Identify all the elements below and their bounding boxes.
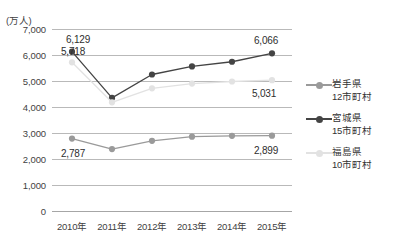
series-line-岩手県 bbox=[72, 136, 272, 149]
legend-label-prefecture: 福島県 bbox=[332, 146, 372, 159]
legend-marker-icon-岩手県 bbox=[306, 79, 332, 91]
data-label-6066: 6,066 bbox=[254, 35, 278, 46]
data-point-福島県-2014年 bbox=[229, 78, 235, 84]
line-chart: (万人) 01,0002,0003,0004,0005,0006,0007,00… bbox=[0, 0, 393, 242]
legend-marker-icon-福島県 bbox=[306, 147, 332, 159]
legend-label-municipalities: 15市町村 bbox=[332, 125, 372, 138]
y-tick-label-6000: 6,000 bbox=[23, 50, 46, 61]
legend-label-municipalities: 12市町村 bbox=[332, 91, 372, 104]
legend-dot-icon bbox=[316, 150, 323, 157]
legend-dot-icon bbox=[316, 116, 323, 123]
data-point-福島県-2011年 bbox=[109, 99, 115, 105]
legend-item-岩手県[interactable]: 岩手県12市町村 bbox=[306, 78, 392, 103]
x-tick-label-2: 2012年 bbox=[137, 219, 167, 233]
legend-marker-icon-宮城県 bbox=[306, 113, 332, 125]
legend-label-prefecture: 宮城県 bbox=[332, 112, 372, 125]
data-point-宮城県-2012年 bbox=[149, 71, 155, 77]
plot-area bbox=[52, 29, 292, 211]
y-tick-label-1000: 1,000 bbox=[23, 180, 46, 191]
y-tick-label-2000: 2,000 bbox=[23, 154, 46, 165]
data-point-宮城県-2014年 bbox=[229, 59, 235, 65]
data-point-宮城県-2015年 bbox=[269, 50, 275, 56]
series-line-福島県 bbox=[72, 62, 272, 102]
y-tick-label-3000: 3,000 bbox=[23, 128, 46, 139]
data-point-岩手県-2010年 bbox=[69, 135, 75, 141]
data-point-岩手県-2013年 bbox=[189, 134, 195, 140]
y-tick-label-5000: 5,000 bbox=[23, 76, 46, 87]
data-point-福島県-2012年 bbox=[149, 85, 155, 91]
data-point-福島県-2010年 bbox=[69, 59, 75, 65]
legend-label-group: 福島県10市町村 bbox=[332, 146, 372, 171]
data-point-岩手県-2011年 bbox=[109, 146, 115, 152]
data-label-2899: 2,899 bbox=[254, 144, 278, 155]
x-tick-label-5: 2015年 bbox=[257, 219, 287, 233]
data-point-福島県-2015年 bbox=[269, 77, 275, 83]
data-point-岩手県-2015年 bbox=[269, 133, 275, 139]
gridline-0 bbox=[52, 211, 292, 212]
x-tick-label-0: 2010年 bbox=[57, 219, 87, 233]
series-line-宮城県 bbox=[72, 52, 272, 98]
legend-label-prefecture: 岩手県 bbox=[332, 78, 372, 91]
legend-dot-icon bbox=[316, 82, 323, 89]
data-point-岩手県-2012年 bbox=[149, 138, 155, 144]
data-point-宮城県-2013年 bbox=[189, 63, 195, 69]
data-label-5031: 5,031 bbox=[252, 88, 276, 99]
legend-item-宮城県[interactable]: 宮城県15市町村 bbox=[306, 112, 392, 137]
data-series-layer bbox=[52, 29, 292, 211]
data-label-2787: 2,787 bbox=[61, 147, 85, 158]
legend-item-福島県[interactable]: 福島県10市町村 bbox=[306, 146, 392, 171]
data-label-6129: 6,129 bbox=[66, 33, 90, 44]
legend-label-municipalities: 10市町村 bbox=[332, 159, 372, 172]
data-label-5718: 5,718 bbox=[61, 46, 85, 57]
chart-legend: 岩手県12市町村宮城県15市町村福島県10市町村 bbox=[306, 78, 392, 180]
y-tick-label-7000: 7,000 bbox=[23, 24, 46, 35]
legend-label-group: 宮城県15市町村 bbox=[332, 112, 372, 137]
y-tick-label-4000: 4,000 bbox=[23, 102, 46, 113]
legend-label-group: 岩手県12市町村 bbox=[332, 78, 372, 103]
data-point-岩手県-2014年 bbox=[229, 133, 235, 139]
y-tick-label-0: 0 bbox=[41, 206, 46, 217]
data-point-福島県-2013年 bbox=[189, 81, 195, 87]
x-tick-label-1: 2011年 bbox=[97, 219, 126, 233]
x-tick-label-4: 2014年 bbox=[217, 219, 247, 233]
x-tick-label-3: 2013年 bbox=[177, 219, 207, 233]
